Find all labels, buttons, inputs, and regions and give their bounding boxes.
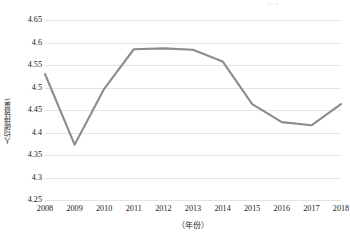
y-tick-label: 4.55: [8, 61, 42, 69]
y-tick-label: 4.6: [8, 38, 42, 46]
line-chart: 人均碳排放量/t 4.254.34.354.44.454.54.554.64.6…: [0, 0, 350, 245]
y-tick-label: 4.4: [8, 128, 42, 136]
gridline: [45, 200, 341, 201]
x-axis-title: （年份）: [45, 220, 341, 232]
series-polyline: [45, 48, 341, 144]
x-axis-tick-labels: 2008200920102011201220132014201520162017…: [45, 203, 341, 217]
scan-artifact-mark: [268, 3, 278, 9]
y-tick-label: 4.65: [8, 16, 42, 24]
y-tick-label: 4.45: [8, 106, 42, 114]
y-tick-label: 4.35: [8, 151, 42, 159]
x-tick-label: 2018: [321, 203, 350, 215]
y-tick-label: 4.5: [8, 83, 42, 91]
series-line: [45, 20, 341, 200]
plot-area: [45, 20, 341, 200]
y-tick-label: 4.3: [8, 173, 42, 181]
